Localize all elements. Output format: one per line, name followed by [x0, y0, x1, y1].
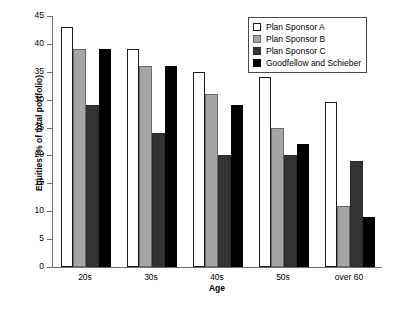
bar: [231, 105, 244, 267]
bar-group: [127, 16, 177, 267]
caption-remnant: [6, 303, 176, 310]
legend-swatch-icon: [253, 35, 261, 43]
x-category-label: 40s: [184, 272, 250, 282]
y-tick: 0: [47, 267, 52, 268]
legend-swatch-icon: [253, 59, 261, 67]
x-category-label: 20s: [52, 272, 118, 282]
legend-label: Plan Sponsor C: [266, 46, 326, 56]
bar: [284, 155, 297, 267]
y-tick-label: 15: [35, 177, 44, 187]
bar: [325, 102, 338, 267]
bar: [139, 66, 152, 267]
bar-group: [61, 16, 111, 267]
legend-swatch-icon: [253, 23, 261, 31]
bar: [297, 144, 310, 267]
y-tick: 5: [47, 239, 52, 240]
legend-item: Plan Sponsor A: [253, 21, 361, 33]
y-tick-label: 40: [35, 38, 44, 48]
legend-label: Goodfellow and Schieber: [266, 58, 361, 68]
y-tick-label: 25: [35, 122, 44, 132]
bar: [337, 206, 350, 267]
y-tick: 30: [47, 100, 52, 101]
bar: [99, 49, 112, 267]
x-category-label: 30s: [118, 272, 184, 282]
bar: [127, 49, 140, 267]
y-tick: 15: [47, 183, 52, 184]
y-tick: 40: [47, 44, 52, 45]
legend-swatch-icon: [253, 47, 261, 55]
bar: [350, 161, 363, 267]
bar: [73, 49, 86, 267]
bar-chart-figure: Equities (% of total portfolio) 45403530…: [0, 0, 405, 315]
y-tick: 20: [47, 155, 52, 156]
legend-label: Plan Sponsor A: [266, 22, 325, 32]
bar: [259, 77, 272, 267]
y-tick: 45: [47, 16, 52, 17]
x-axis-line: [52, 267, 382, 268]
bar: [363, 217, 376, 267]
y-tick-label: 20: [35, 149, 44, 159]
x-category-label: over 60: [316, 272, 382, 282]
y-tick: 25: [47, 128, 52, 129]
bar: [61, 27, 74, 267]
bar: [86, 105, 99, 267]
bar: [152, 133, 165, 267]
legend-item: Plan Sponsor C: [253, 45, 361, 57]
y-tick: 35: [47, 72, 52, 73]
y-tick-label: 35: [35, 66, 44, 76]
bar: [193, 72, 206, 267]
x-axis-title: Age: [52, 283, 382, 293]
y-tick-label: 0: [39, 261, 44, 271]
bar: [271, 128, 284, 267]
y-axis-line: [52, 16, 53, 267]
y-tick: 10: [47, 211, 52, 212]
y-tick-label: 10: [35, 205, 44, 215]
bar: [205, 94, 218, 267]
x-category-label: 50s: [250, 272, 316, 282]
y-tick-label: 45: [35, 10, 44, 20]
legend-item: Plan Sponsor B: [253, 33, 361, 45]
legend: Plan Sponsor APlan Sponsor BPlan Sponsor…: [248, 17, 367, 73]
bar-group: [193, 16, 243, 267]
legend-label: Plan Sponsor B: [266, 34, 325, 44]
legend-item: Goodfellow and Schieber: [253, 57, 361, 69]
bar: [218, 155, 231, 267]
y-tick-label: 5: [39, 233, 44, 243]
y-tick-label: 30: [35, 94, 44, 104]
bar: [165, 66, 178, 267]
